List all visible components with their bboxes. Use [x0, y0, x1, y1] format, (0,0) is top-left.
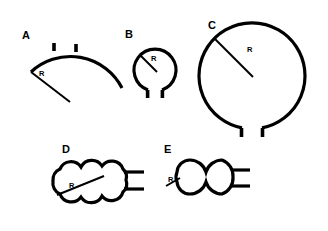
panel-c-group: C R: [199, 19, 305, 137]
panel-d-radius-label: R: [69, 181, 75, 190]
panel-a-group: A R: [22, 29, 122, 102]
panel-a-radius-line: [31, 72, 70, 102]
figure-container: A R B R C R: [0, 0, 328, 231]
panel-e-radius-label: R: [168, 175, 174, 184]
panel-b-label: B: [125, 28, 133, 40]
panel-d-radius-line: [57, 176, 104, 195]
panel-a-label: A: [22, 29, 30, 41]
panel-c-label: C: [208, 19, 216, 31]
panel-e-cloverleaf-outline: [176, 160, 233, 194]
panel-d-label: D: [62, 143, 70, 155]
panel-e-group: E R: [164, 143, 250, 194]
panel-e-label: E: [164, 143, 171, 155]
panel-c-radius-label: R: [247, 45, 253, 54]
panel-b-group: B R: [125, 28, 176, 98]
panel-a-radius-label: R: [39, 69, 45, 78]
shapes-figure: A R B R C R: [0, 0, 328, 231]
panel-b-radius-label: R: [151, 54, 157, 63]
panel-d-group: D R: [53, 143, 144, 203]
